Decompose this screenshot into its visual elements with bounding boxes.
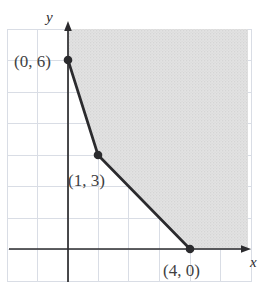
point-marker-0-6 xyxy=(64,56,73,65)
point-label-0-6: (0, 6) xyxy=(14,53,51,70)
graph-figure: (0, 6) (1, 3) (4, 0) y x xyxy=(0,0,261,303)
y-axis-arrowhead xyxy=(64,21,72,31)
point-label-1-3: (1, 3) xyxy=(68,172,105,189)
point-label-4-0: (4, 0) xyxy=(163,262,200,279)
point-marker-1-3 xyxy=(94,151,103,160)
plot-canvas xyxy=(0,0,261,303)
y-axis-label: y xyxy=(46,10,53,25)
x-axis-label: x xyxy=(250,255,257,270)
point-marker-4-0 xyxy=(186,245,195,254)
